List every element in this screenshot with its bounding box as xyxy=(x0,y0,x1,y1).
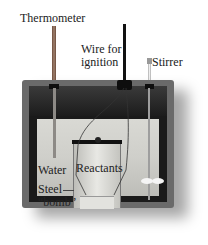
label-reactants: Reactants xyxy=(76,162,123,175)
leader-steel xyxy=(63,190,74,191)
ignition-wires xyxy=(0,0,208,245)
label-steel-line2: “bomb” xyxy=(38,196,76,209)
label-water: Water xyxy=(38,164,66,177)
